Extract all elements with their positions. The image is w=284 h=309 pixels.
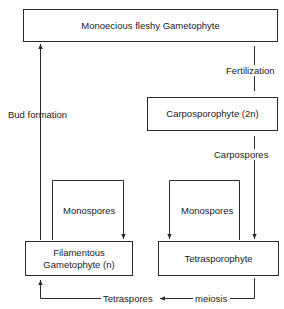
node-tetrasporophyte-label: Tetrasporophyte [184,253,252,265]
edge-label-tetraspores: Tetraspores [103,293,153,304]
edge-label-fertilization: Fertilization [226,65,275,76]
node-monoecious-gametophyte: Monoecious fleshy Gametophyte [23,9,278,42]
node-carposporophyte-label: Carposporophyte (2n) [166,108,258,120]
node-filamentous-label-line1: Filamentous [53,247,105,259]
edge-label-monospores-left: Monospores [63,205,115,216]
edge-label-meiosis: meiosis [195,293,227,304]
node-tetrasporophyte: Tetrasporophyte [158,241,279,276]
node-filamentous-label-line2: Gametophyte (n) [43,259,114,271]
node-monoecious-label: Monoecious fleshy Gametophyte [81,20,219,32]
edge-label-monospores-right: Monospores [181,205,233,216]
meiosis-line [230,278,255,299]
node-carposporophyte: Carposporophyte (2n) [147,97,278,131]
edge-label-carpospores: Carpospores [214,149,268,160]
tetraspores-line [41,280,102,299]
edge-label-bud-formation: Bud formation [8,109,67,120]
node-filamentous-gametophyte: Filamentous Gametophyte (n) [25,241,133,276]
